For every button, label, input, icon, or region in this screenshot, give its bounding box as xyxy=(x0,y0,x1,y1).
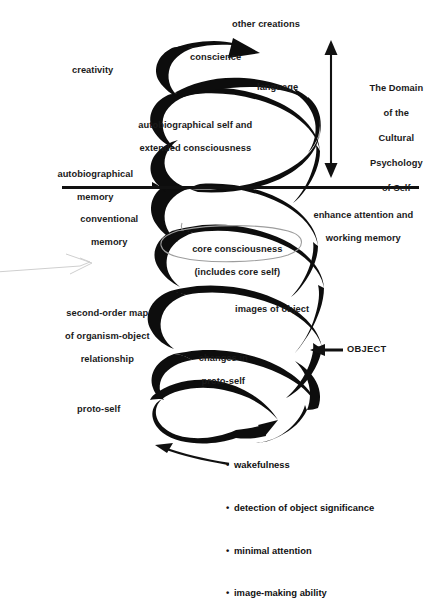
label-images-of-object: images of object xyxy=(235,304,309,316)
label-conventional-memory-line2: memory xyxy=(91,237,127,247)
label-autobiographical-self-line1: autobiographical self and xyxy=(138,120,252,130)
label-autobiographical-memory-line2: memory xyxy=(77,192,113,202)
label-other-creations: other creations xyxy=(232,19,300,31)
label-autobiographical-memory-line1: autobiographical xyxy=(57,169,133,179)
label-domain-of-cultural-psychology: The Domain of the Cultural Psychology of… xyxy=(345,70,437,206)
bullet-icon: • xyxy=(226,501,234,515)
label-object: OBJECT xyxy=(347,344,387,356)
label-second-order-map-line3: relationship xyxy=(81,354,134,364)
list-item: •detection of object significance xyxy=(226,501,374,515)
label-domain-line4: Psychology xyxy=(370,158,423,168)
label-domain-line1: The Domain xyxy=(369,83,423,93)
list-item: •wakefulness xyxy=(226,458,374,472)
list-item: •minimal attention xyxy=(226,544,374,558)
label-changes-in-proto-self-line1: changes in xyxy=(199,353,248,363)
list-item: •image-making ability xyxy=(226,586,374,600)
label-changes-in-proto-self: changes in proto-self xyxy=(176,341,260,399)
label-second-order-map-line1: second-order map xyxy=(66,308,148,318)
label-creativity: creativity xyxy=(72,65,113,77)
label-enhance-attention: enhance attention and working memory xyxy=(288,198,428,256)
list-item-label: image-making ability xyxy=(234,587,327,598)
label-changes-in-proto-self-line2: proto-self xyxy=(202,376,245,386)
label-enhance-attention-line2: working memory xyxy=(326,233,401,243)
label-core-consciousness-line1: core consciousness xyxy=(192,244,282,254)
label-conscience: conscience xyxy=(190,52,241,64)
label-domain-line3: Cultural xyxy=(379,133,415,143)
bullet-icon: • xyxy=(226,544,234,558)
label-conventional-memory: conventional memory xyxy=(50,202,158,260)
list-item-label: wakefulness xyxy=(234,459,290,470)
bullet-icon: • xyxy=(226,458,234,472)
label-core-consciousness: core consciousness (includes core self) xyxy=(170,232,294,290)
label-second-order-map: second-order map of organism-object rela… xyxy=(44,296,160,377)
list-item-label: minimal attention xyxy=(234,545,312,556)
label-domain-line2: of the xyxy=(383,108,409,118)
label-language: language xyxy=(257,82,298,94)
label-enhance-attention-line1: enhance attention and xyxy=(313,210,413,220)
label-proto-self: proto-self xyxy=(77,404,120,416)
label-core-consciousness-line2: (includes core self) xyxy=(194,267,280,277)
label-domain-line5: of Self xyxy=(382,183,411,193)
bullet-icon: • xyxy=(226,586,234,600)
label-second-order-map-line2: of organism-object xyxy=(65,331,150,341)
list-item-label: detection of object significance xyxy=(234,502,374,513)
label-autobiographical-self-line2: extended consciousness xyxy=(139,143,251,153)
label-conventional-memory-line1: conventional xyxy=(80,214,138,224)
proto-self-feature-list: •wakefulness •detection of object signif… xyxy=(226,430,374,602)
